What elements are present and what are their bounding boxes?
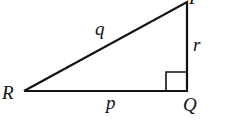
vertex-label-q: Q	[183, 94, 197, 115]
triangle-outline	[24, 2, 187, 91]
side-label-q: q	[95, 18, 105, 39]
side-label-r: r	[193, 34, 201, 55]
side-label-p: p	[104, 92, 116, 113]
vertex-label-p: P	[188, 0, 201, 8]
vertex-label-r: R	[1, 82, 14, 103]
right-triangle-diagram: P Q R q r p	[0, 0, 228, 127]
right-angle-marker	[166, 72, 187, 91]
